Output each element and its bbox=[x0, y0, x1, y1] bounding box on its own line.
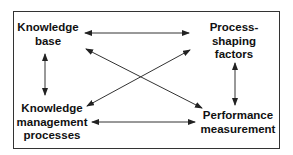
arrow-knowledge-management-processes-to-process-shaping-factors bbox=[87, 50, 190, 106]
node-knowledge-management-processes: Knowledge management processes bbox=[6, 102, 98, 143]
arrow-knowledge-base-to-performance-measurement bbox=[86, 49, 202, 108]
node-process-shaping-factors: Process- shaping factors bbox=[196, 21, 272, 62]
node-knowledge-base: Knowledge base bbox=[12, 21, 84, 48]
node-performance-measurement: Performance measurement bbox=[192, 109, 284, 136]
